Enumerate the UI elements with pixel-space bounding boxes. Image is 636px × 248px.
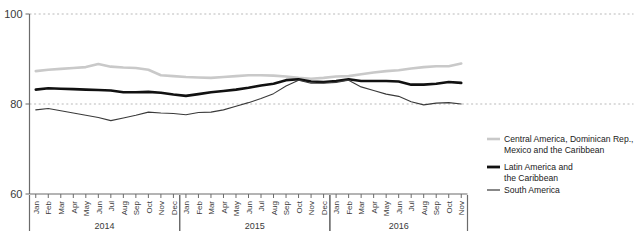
year-label: 2015: [245, 221, 265, 231]
legend-label-0: Central America, Dominican Rep.,: [504, 134, 633, 144]
y-axis-labels: 6080100: [4, 8, 22, 200]
legend-label-0-line2: Mexico and the Caribbean: [504, 145, 605, 155]
gridlines: [30, 14, 634, 104]
month-label: Sep: [432, 200, 441, 215]
legend-label-1: Latin America and: [504, 162, 573, 172]
month-label: Sep: [282, 200, 291, 215]
month-label: Apr: [70, 201, 79, 214]
series-line-2: South America: [36, 80, 461, 121]
month-label: Jan: [32, 201, 41, 214]
month-label: Jun: [95, 201, 104, 214]
month-label: Jan: [182, 201, 191, 214]
month-labels: JanFebMarAprMayJunJulAugSepOctNovDecJanF…: [32, 200, 466, 216]
month-label: Oct: [295, 200, 304, 213]
chart-container: 6080100 Central America, Dominican Rep.,…: [0, 0, 636, 248]
month-label: Jul: [257, 201, 266, 211]
y-axis-label: 100: [4, 8, 22, 20]
month-label: Dec: [320, 201, 329, 215]
month-label: Jun: [395, 201, 404, 214]
month-label: Apr: [220, 201, 229, 214]
month-label: Mar: [207, 201, 216, 215]
month-label: Jul: [107, 201, 116, 211]
month-label: May: [232, 201, 241, 216]
year-label: 2016: [389, 221, 409, 231]
month-label: Aug: [120, 201, 129, 215]
year-label: 2014: [95, 221, 115, 231]
month-label: Feb: [195, 200, 204, 214]
month-label: Jul: [407, 201, 416, 211]
month-label: Oct: [445, 200, 454, 213]
legend: Central America, Dominican Rep.,Mexico a…: [487, 134, 633, 195]
month-label: Aug: [420, 201, 429, 215]
month-label: Nov: [457, 201, 466, 215]
month-label: Mar: [357, 201, 366, 215]
data-series: Central America, Dominican Rep., Mexico …: [36, 64, 461, 121]
month-label: Apr: [370, 201, 379, 214]
month-label: Sep: [132, 200, 141, 215]
legend-label-1-line2: the Caribbean: [504, 173, 558, 183]
month-label: Aug: [270, 201, 279, 215]
month-label: Nov: [157, 201, 166, 215]
month-label: May: [82, 201, 91, 216]
month-label: May: [382, 201, 391, 216]
month-label: Jan: [332, 201, 341, 214]
series-line-1: Latin America and the Caribbean: [36, 79, 461, 96]
legend-label-2: South America: [504, 185, 560, 195]
month-label: Mar: [57, 201, 66, 215]
y-axis-label: 60: [10, 188, 22, 200]
month-label: Oct: [145, 200, 154, 213]
y-axis-label: 80: [10, 98, 22, 110]
month-label: Dec: [170, 201, 179, 215]
month-label: Jun: [245, 201, 254, 214]
month-label: Nov: [307, 201, 316, 215]
series-line-0: Central America, Dominican Rep., Mexico …: [36, 64, 461, 79]
month-label: Feb: [345, 200, 354, 214]
line-chart: 6080100 Central America, Dominican Rep.,…: [0, 0, 636, 248]
month-label: Feb: [44, 200, 53, 214]
x-axis-ticks: [36, 194, 461, 198]
